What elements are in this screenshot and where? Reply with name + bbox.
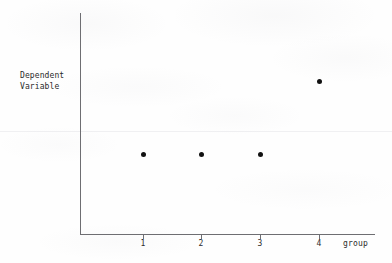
x-axis-line bbox=[80, 234, 375, 235]
data-point bbox=[258, 152, 263, 157]
data-point bbox=[199, 152, 204, 157]
y-axis-line bbox=[80, 13, 81, 235]
y-axis-label: Dependent Variable bbox=[20, 70, 78, 92]
data-point bbox=[317, 79, 322, 84]
x-tick-label-4: 4 bbox=[309, 239, 329, 249]
plot-area: 1 2 3 4 Dependent Variable group bbox=[0, 0, 392, 263]
x-axis-label: group bbox=[343, 239, 368, 249]
data-point bbox=[141, 152, 146, 157]
x-tick-label-2: 2 bbox=[191, 239, 211, 249]
x-tick-label-1: 1 bbox=[133, 239, 153, 249]
scatter-plot-figure: 1 2 3 4 Dependent Variable group bbox=[0, 0, 392, 263]
x-tick-label-3: 3 bbox=[250, 239, 270, 249]
